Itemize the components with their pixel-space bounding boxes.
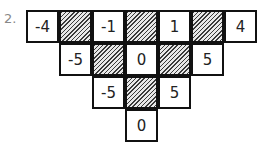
shaded-cell-r1-c1 bbox=[92, 43, 125, 76]
problem-number: 2. bbox=[4, 11, 16, 26]
cell-r0-c0: -4 bbox=[26, 10, 59, 43]
shaded-cell-r0-c5 bbox=[191, 10, 224, 43]
cell-r0-c2: -1 bbox=[92, 10, 125, 43]
cell-r3-c0: 0 bbox=[125, 109, 158, 142]
shaded-cell-r2-c1 bbox=[125, 76, 158, 109]
cell-r1-c2: 0 bbox=[125, 43, 158, 76]
cell-r2-c2: 5 bbox=[158, 76, 191, 109]
shaded-cell-r0-c3 bbox=[125, 10, 158, 43]
shaded-cell-r1-c3 bbox=[158, 43, 191, 76]
cell-r2-c0: -5 bbox=[92, 76, 125, 109]
cell-r0-c4: 1 bbox=[158, 10, 191, 43]
cell-r1-c0: -5 bbox=[59, 43, 92, 76]
shaded-cell-r0-c1 bbox=[59, 10, 92, 43]
cell-r0-c6: 4 bbox=[224, 10, 257, 43]
cell-r1-c4: 5 bbox=[191, 43, 224, 76]
